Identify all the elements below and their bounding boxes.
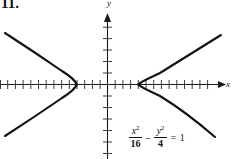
equation-term-2: y2 4 (154, 126, 167, 149)
equation-right-side: 1 (180, 132, 185, 143)
y-axis-label: y (107, 0, 111, 8)
equation-term-1-numerator: x2 (131, 126, 141, 137)
equation-term-2-numerator: y2 (156, 126, 166, 137)
y-axis-arrow-icon (104, 13, 111, 22)
figure-container: 11. (0, 0, 234, 159)
equation-term-1: x2 16 (129, 126, 142, 149)
hyperbola-equation: x2 16 – y2 4 = 1 (128, 126, 185, 149)
equation-term-2-denominator: 4 (157, 139, 164, 150)
equation-term-1-exponent: 2 (136, 124, 139, 131)
hyperbola-plot (0, 0, 234, 159)
equation-term-2-exponent: 2 (161, 124, 164, 131)
equation-equals-sign: = (171, 132, 177, 143)
hyperbola-right-branch (138, 35, 221, 137)
x-axis-arrow-icon (218, 81, 226, 88)
equation-term-1-denominator: 16 (130, 139, 142, 150)
x-axis-label: x (226, 80, 230, 89)
equation-operator: – (146, 132, 151, 143)
